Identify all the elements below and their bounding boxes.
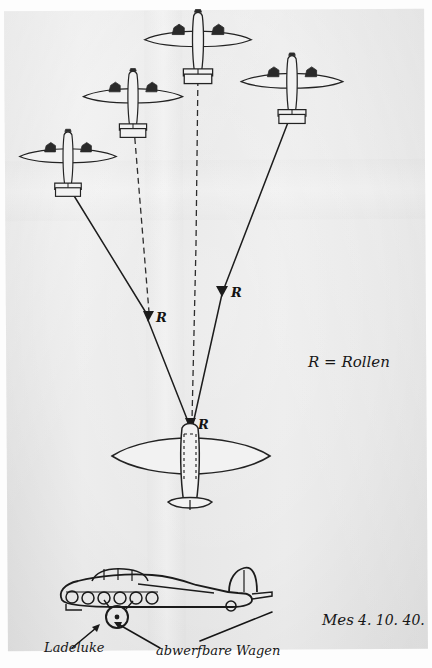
glider-right — [241, 53, 343, 124]
sketch-page: R R R — [0, 0, 432, 668]
droppable-trolley-row — [66, 591, 158, 604]
roller-marker-left: R — [143, 310, 167, 325]
label-abwerfbare-wagen: abwerfbare Wagen — [156, 643, 280, 658]
leader-abwerfbare-wagen — [118, 624, 160, 648]
glider-mid-left — [83, 69, 182, 138]
tow-line-converge-left — [148, 320, 189, 424]
tow-line-right — [223, 112, 292, 291]
glider-far-left — [20, 129, 117, 196]
tow-line-top — [192, 70, 198, 420]
legend-text: R = Rollen — [307, 353, 390, 371]
side-view-aircraft — [61, 568, 272, 628]
tow-line-far-left — [68, 186, 148, 316]
tow-line-converge-right — [193, 294, 222, 424]
roller-marker-right-label: R — [230, 285, 242, 300]
glider-top — [145, 10, 252, 84]
roller-marker-left-label: R — [155, 310, 167, 325]
tow-line-mid-left — [134, 128, 149, 312]
signature: Mes — [321, 611, 354, 629]
tail-wheel — [226, 601, 236, 611]
signature-date: 4. 10. 40. — [357, 612, 425, 628]
label-ladeluke: Ladeluke — [43, 640, 105, 655]
roller-marker-right: R — [216, 285, 242, 300]
tow-line-group — [68, 70, 292, 424]
tug-aircraft — [112, 424, 270, 511]
sketch-artwork: R R R — [0, 0, 432, 668]
